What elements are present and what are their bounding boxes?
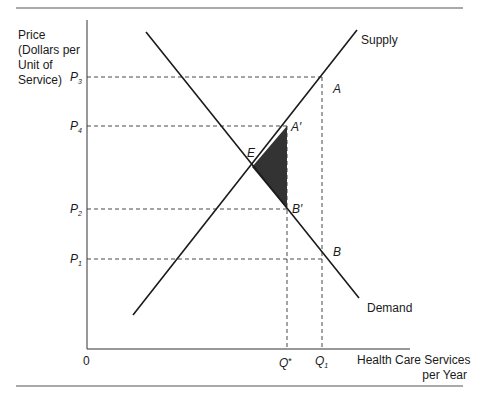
quantity-label-qstar: Q* bbox=[279, 354, 292, 370]
guide-lines bbox=[87, 77, 322, 349]
point-label-a-prime: A′ bbox=[291, 120, 301, 134]
deadweight-loss-triangle bbox=[252, 126, 287, 209]
y-axis-title-line: (Dollars per bbox=[18, 43, 80, 58]
price-label-p2: P2 bbox=[70, 202, 82, 221]
demand-label: Demand bbox=[367, 301, 412, 315]
y-axis-title-line: Price bbox=[18, 28, 80, 43]
x-axis-title-line: per Year bbox=[357, 368, 467, 383]
price-label-p4: P4 bbox=[70, 119, 82, 138]
origin-label: 0 bbox=[83, 354, 90, 368]
supply-curve bbox=[133, 30, 357, 315]
x-axis-title-line: Health Care Services bbox=[357, 353, 467, 368]
price-label-p1: P1 bbox=[70, 252, 82, 271]
supply-label: Supply bbox=[361, 33, 398, 47]
x-axis-title: Health Care Services per Year bbox=[357, 353, 467, 383]
point-label-a: A bbox=[333, 82, 341, 96]
point-label-b: B bbox=[333, 245, 341, 259]
point-label-e: E bbox=[247, 146, 255, 160]
quantity-label-q1: Q1 bbox=[315, 354, 328, 373]
point-label-b-prime: B′ bbox=[292, 202, 302, 216]
price-label-p3: P3 bbox=[70, 70, 82, 89]
